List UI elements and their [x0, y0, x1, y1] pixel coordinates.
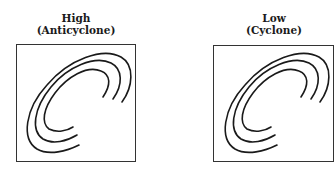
high-label: High — [16, 12, 136, 24]
isobar-curves-low — [214, 46, 335, 163]
isobar-curves-high — [17, 45, 137, 163]
panel-low-title: Low (Cyclone) — [214, 12, 334, 36]
isobar-box-high — [16, 44, 136, 162]
anticyclone-label: (Anticyclone) — [16, 24, 136, 36]
isobar-box-low — [213, 45, 334, 162]
panel-high-title: High (Anticyclone) — [16, 12, 136, 36]
low-label: Low — [214, 12, 334, 24]
cyclone-label: (Cyclone) — [214, 24, 334, 36]
